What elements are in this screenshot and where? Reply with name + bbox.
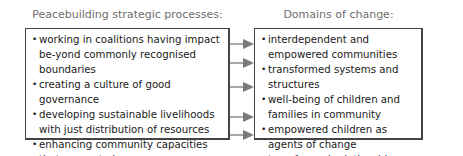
arrow-right-icon: [230, 112, 254, 122]
list-item: •transformed relationships: [261, 152, 421, 156]
arrow-right-icon: [230, 58, 254, 68]
list-item: •creating a culture of good governance: [32, 77, 228, 107]
bullet-icon: •: [32, 107, 37, 122]
list-item: •well-being of children and families in …: [261, 92, 421, 122]
bullet-icon: •: [32, 137, 37, 152]
list-item: •developing sustainable livelihoods with…: [32, 107, 228, 137]
bullet-icon: •: [261, 122, 266, 137]
bullet-icon: •: [32, 32, 37, 47]
list-item: •working in coalitions having impact be-…: [32, 32, 228, 77]
arrow-right-icon: [230, 39, 254, 49]
list-item: •transformed systems and structures: [261, 62, 421, 92]
arrow-right-icon: [230, 130, 254, 140]
domains-of-change-box: •interdependent and empowered communitie…: [254, 28, 423, 140]
right-heading: Domains of change:: [254, 8, 423, 21]
list-item: •empowered children as agents of change: [261, 122, 421, 152]
bullet-icon: •: [261, 32, 266, 47]
list-item: •interdependent and empowered communitie…: [261, 32, 421, 62]
bullet-icon: •: [32, 77, 37, 92]
bullet-icon: •: [261, 92, 266, 107]
left-heading: Peacebuilding strategic processes:: [25, 8, 230, 21]
list-item: •enhancing community capacities that gen…: [32, 137, 228, 156]
strategic-processes-box: •working in coalitions having impact be-…: [25, 28, 230, 140]
arrow-right-icon: [230, 82, 254, 92]
bullet-icon: •: [261, 152, 266, 156]
bullet-icon: •: [261, 62, 266, 77]
